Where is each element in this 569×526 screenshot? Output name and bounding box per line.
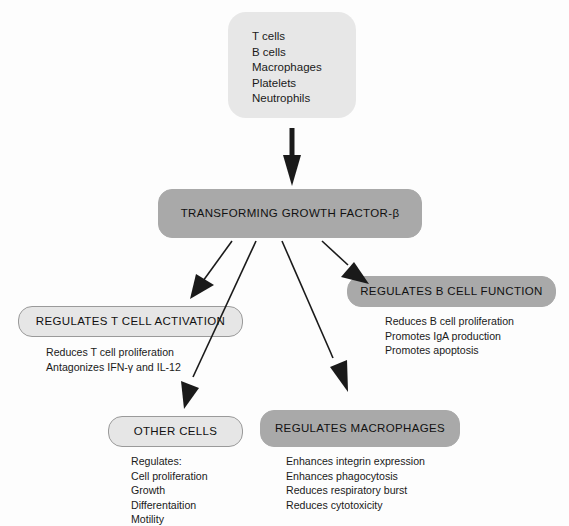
arrow-source-to-tgf-beta <box>283 128 301 186</box>
arrow-tgf-beta-to-macrophages <box>282 241 348 392</box>
other-cells-effects: Regulates: Cell proliferation Growth Dif… <box>131 454 208 526</box>
arrow-tgf-beta-to-t-cell-activation <box>190 241 232 299</box>
regulates-macrophages-label: REGULATES MACROPHAGES <box>275 421 445 435</box>
tgf-beta-label: TRANSFORMING GROWTH FACTOR-β <box>181 206 400 220</box>
regulates-b-cell-function-label: REGULATES B CELL FUNCTION <box>360 284 543 298</box>
tgf-beta-box: TRANSFORMING GROWTH FACTOR-β <box>158 189 422 238</box>
regulates-t-cell-activation-effects: Reduces T cell proliferation Antagonizes… <box>46 345 181 374</box>
other-cells-box: OTHER CELLS <box>108 416 243 447</box>
regulates-t-cell-activation-label: REGULATES T CELL ACTIVATION <box>36 314 225 328</box>
other-cells-label: OTHER CELLS <box>134 424 218 438</box>
source-cells-list: T cells B cells Macrophages Platelets Ne… <box>252 29 322 107</box>
tgf-beta-signaling-diagram: T cells B cells Macrophages Platelets Ne… <box>0 0 569 526</box>
regulates-macrophages-box: REGULATES MACROPHAGES <box>260 410 460 447</box>
regulates-b-cell-function-effects: Reduces B cell proliferation Promotes Ig… <box>385 314 514 358</box>
regulates-t-cell-activation-box: REGULATES T CELL ACTIVATION <box>18 306 243 337</box>
regulates-b-cell-function-box: REGULATES B CELL FUNCTION <box>347 276 556 307</box>
regulates-macrophages-effects: Enhances integrin expression Enhances ph… <box>286 454 425 512</box>
